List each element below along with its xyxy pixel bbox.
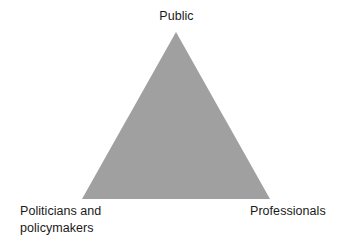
vertex-label-public: Public — [0, 8, 351, 25]
vertex-label-politicians-policymakers: Politicians and policymakers — [20, 203, 101, 237]
vertex-label-politicians-line-1: Politicians and — [20, 203, 101, 220]
vertex-label-professionals: Professionals — [250, 203, 326, 220]
diagram-canvas: Public Politicians and policymakers Prof… — [0, 0, 351, 247]
vertex-label-politicians-line-2: policymakers — [20, 220, 101, 237]
triangle-shape — [82, 32, 270, 199]
vertex-label-professionals-text: Professionals — [250, 203, 326, 220]
vertex-label-public-text: Public — [159, 8, 193, 25]
